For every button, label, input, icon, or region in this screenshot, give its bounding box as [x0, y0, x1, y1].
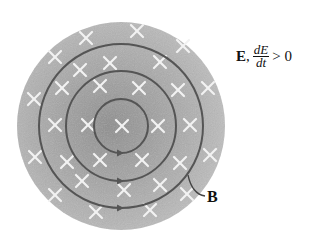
e-separator: , — [246, 48, 250, 65]
fraction-denominator: dt — [256, 57, 266, 69]
electric-field-label: E, dE dt > 0 — [236, 44, 292, 69]
inequality: > 0 — [272, 48, 292, 65]
magnetic-field-label: B — [207, 188, 218, 206]
e-symbol: E — [236, 48, 246, 65]
field-diagram — [0, 0, 312, 243]
derivative-fraction: dE dt — [253, 44, 269, 69]
